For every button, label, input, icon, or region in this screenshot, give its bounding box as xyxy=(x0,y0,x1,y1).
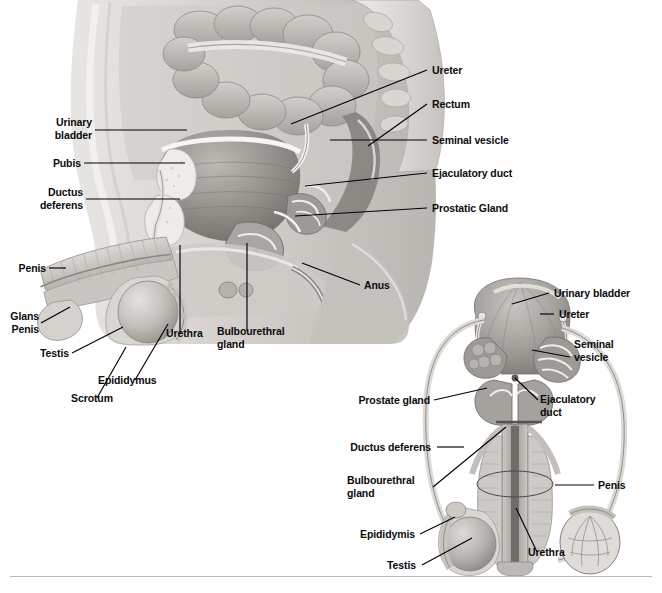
label-a-ejaculatory-duct: Ejaculatory duct xyxy=(540,393,610,418)
footer-divider xyxy=(10,576,652,577)
label-prostatic-gland: Prostatic Gland xyxy=(432,202,536,215)
label-glans-penis: Glans Penis xyxy=(2,310,39,335)
label-a-seminal-vesicle: Seminal vesicle xyxy=(574,338,640,363)
label-a-testis: Testis xyxy=(387,559,431,572)
label-a-ductus-deferens: Ductus deferens xyxy=(327,441,431,454)
label-penis: Penis xyxy=(4,262,46,275)
label-pubis: Pubis xyxy=(20,157,81,170)
label-ureter: Ureter xyxy=(432,64,492,77)
anatomy-figure: Urinary bladder Pubis Ductus deferens Pe… xyxy=(0,0,662,593)
label-urethra: Urethra xyxy=(166,327,218,340)
label-rectum: Rectum xyxy=(432,98,492,111)
label-a-prostate-gland: Prostate gland xyxy=(338,394,430,407)
label-seminal-vesicle: Seminal vesicle xyxy=(432,134,542,147)
label-scrotum: Scrotum xyxy=(71,392,131,405)
label-a-urethra: Urethra xyxy=(528,546,580,559)
label-anus: Anus xyxy=(364,279,402,292)
label-ejaculatory-duct: Ejaculatory duct xyxy=(432,167,544,180)
label-urinary-bladder: Urinary bladder xyxy=(20,116,92,141)
anterior-artwork xyxy=(398,276,662,576)
label-testis: Testis xyxy=(18,347,69,360)
label-a-bulbourethral-gland: Bulbourethral gland xyxy=(347,474,433,499)
label-bulbourethral-gland: Bulbourethral gland xyxy=(217,325,297,350)
label-a-epididymis: Epididymis xyxy=(337,528,415,541)
label-ductus-deferens: Ductus deferens xyxy=(12,186,83,211)
label-a-penis: Penis xyxy=(598,479,642,492)
leader-scrotum xyxy=(97,347,126,398)
label-a-ureter: Ureter xyxy=(559,308,609,321)
label-a-urinary-bladder: Urinary bladder xyxy=(554,287,654,300)
label-epididymus: Epididymus xyxy=(98,374,170,387)
